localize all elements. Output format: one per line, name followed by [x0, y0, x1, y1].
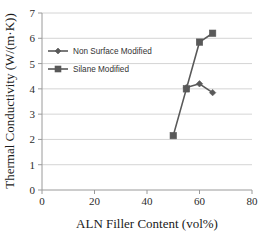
- y-tick-label-4: 4: [30, 83, 36, 95]
- chart-plot-area: 01234567 020406080 Non Surface ModifiedS…: [0, 0, 265, 235]
- legend-item-0: Non Surface Modified: [48, 47, 152, 56]
- x-tick-label-0: 0: [39, 195, 45, 207]
- thermal-conductivity-chart: 01234567 020406080 Non Surface ModifiedS…: [0, 0, 265, 235]
- x-axis-title: ALN Filler Content (vol%): [76, 216, 218, 231]
- legend-marker-1: [55, 66, 61, 72]
- y-tick-label-7: 7: [30, 7, 36, 19]
- y-tick-label-1: 1: [30, 159, 36, 171]
- legend-marker-0: [55, 48, 61, 54]
- gridlines: [42, 13, 252, 165]
- x-axis-tick-labels: 020406080: [39, 195, 258, 207]
- data-point-1-3: [209, 30, 215, 36]
- series-line-1: [173, 33, 212, 135]
- chart-legend: Non Surface ModifiedSilane Modified: [48, 47, 152, 74]
- x-tick-label-20: 20: [89, 195, 101, 207]
- data-point-1-1: [183, 86, 189, 92]
- y-axis-tick-labels: 01234567: [30, 7, 36, 196]
- y-axis-title: Thermal Conductivity (W/(m·K)): [2, 13, 17, 188]
- legend-item-1: Silane Modified: [48, 65, 129, 74]
- y-tick-label-3: 3: [30, 108, 36, 120]
- data-series: [170, 30, 216, 139]
- x-axis-ticks: [42, 190, 252, 194]
- y-tick-label-6: 6: [30, 32, 36, 44]
- y-tick-label-5: 5: [30, 58, 36, 70]
- legend-label-1: Silane Modified: [73, 65, 129, 74]
- x-tick-label-60: 60: [194, 195, 206, 207]
- y-axis-ticks: [38, 13, 42, 190]
- data-point-1-2: [196, 39, 202, 45]
- y-tick-label-0: 0: [30, 184, 36, 196]
- y-tick-label-2: 2: [30, 133, 36, 145]
- legend-label-0: Non Surface Modified: [73, 47, 152, 56]
- series-silane-modified: [170, 30, 216, 139]
- x-tick-label-40: 40: [142, 195, 154, 207]
- x-tick-label-80: 80: [247, 195, 259, 207]
- data-point-1-0: [170, 132, 176, 138]
